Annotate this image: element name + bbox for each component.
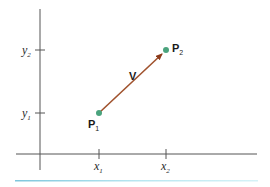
y2-label: y2 <box>21 43 31 59</box>
point-p1-label: P1 <box>88 118 99 132</box>
x2-label: x2 <box>160 159 170 175</box>
point-p1-dot <box>96 110 102 116</box>
y1-label: y1 <box>21 106 31 122</box>
footer-rule <box>15 180 258 182</box>
x1-label: x1 <box>93 159 103 175</box>
vector-v-arrow <box>100 54 162 112</box>
vector-diagram: x1 x2 y2 y1 V P1 P2 <box>0 0 270 187</box>
vector-v-label: V <box>129 70 137 82</box>
point-p2-dot <box>163 47 169 53</box>
point-p2-label: P2 <box>172 42 183 56</box>
